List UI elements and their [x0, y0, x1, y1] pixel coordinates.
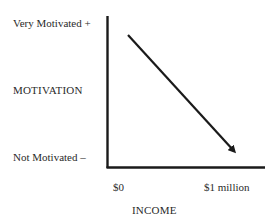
x-axis-title: INCOME	[132, 204, 177, 216]
y-tick-very-motivated: Very Motivated +	[13, 17, 91, 29]
x-tick-zero: $0	[113, 181, 124, 193]
y-tick-not-motivated: Not Motivated –	[13, 151, 86, 163]
y-axis-title: MOTIVATION	[13, 84, 83, 96]
trend-arrow	[128, 35, 234, 151]
x-tick-one-million: $1 million	[204, 181, 250, 193]
